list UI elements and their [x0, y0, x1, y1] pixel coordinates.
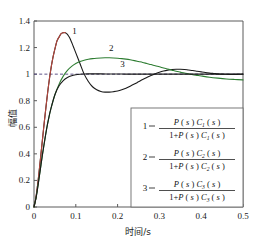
line-chart: 00.20.40.60.811.21.400.10.20.30.40.5 123… — [0, 0, 254, 248]
legend-entry-3-denominator: 1+P ( s ) C3 ( s ) — [169, 192, 225, 203]
legend-entry-1-numerator: P ( s ) C1 ( s ) — [173, 117, 221, 128]
legend-entry-2-numerator: P ( s ) C2 ( s ) — [173, 148, 221, 159]
legend-entry-3-numerator: P ( s ) C3 ( s ) — [173, 179, 221, 190]
x-tick-label: 0.2 — [112, 211, 123, 221]
y-tick-label: 0.4 — [19, 149, 31, 159]
y-tick-label: 0.8 — [19, 96, 31, 106]
figure-container: 00.20.40.60.811.21.400.10.20.30.40.5 123… — [0, 0, 254, 248]
y-tick-label: 1.4 — [19, 16, 31, 26]
x-axis-title: 时间/s — [125, 226, 151, 237]
x-tick-label: 0 — [32, 211, 37, 221]
y-tick-label: 0.2 — [19, 175, 30, 185]
y-tick-label: 1.2 — [19, 43, 30, 53]
legend-box: 1P ( s ) C1 ( s )1+P ( s ) C1 ( s )2P ( … — [131, 108, 243, 207]
curve-label-2: 2 — [109, 43, 114, 53]
legend-entry-1-index: 1 — [143, 121, 148, 131]
curve-label-3: 3 — [120, 59, 125, 69]
curve-label-1: 1 — [72, 26, 77, 36]
legend-entry-2-denominator: 1+P ( s ) C2 ( s ) — [169, 161, 225, 172]
x-tick-label: 0.5 — [237, 211, 249, 221]
x-tick-label: 0.3 — [154, 211, 166, 221]
legend-entry-1-denominator: 1+P ( s ) C1 ( s ) — [169, 130, 225, 141]
y-tick-label: 0.6 — [19, 122, 31, 132]
x-tick-label: 0.4 — [196, 211, 208, 221]
legend-entry-2-index: 2 — [143, 152, 148, 162]
legend-entry-3-index: 3 — [143, 183, 148, 193]
y-tick-label: 0 — [26, 202, 31, 212]
y-tick-label: 1 — [26, 69, 31, 79]
x-tick-label: 0.1 — [70, 211, 81, 221]
y-axis-title: 幅值 — [7, 109, 18, 127]
